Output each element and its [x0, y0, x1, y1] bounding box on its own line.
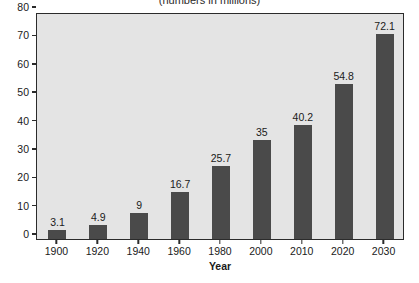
y-axis-tick-label: 30	[17, 143, 32, 155]
y-axis-tick: 60	[17, 58, 36, 70]
chart-subtitle: (numbers in millions)	[0, 0, 419, 6]
y-axis-tick: 0	[23, 228, 36, 240]
y-axis-tick-label: 20	[17, 171, 32, 183]
bar-group: 25.7	[201, 14, 242, 239]
x-axis-tick-label: 1920	[86, 244, 109, 257]
bar	[48, 230, 66, 239]
y-axis-tick-mark	[32, 6, 36, 8]
bar-value-label: 3.1	[50, 216, 65, 228]
x-axis-tick: 1900	[45, 240, 68, 257]
bar-group: 72.1	[364, 14, 405, 239]
x-axis: 190019201940196019802000201020202030	[36, 240, 404, 256]
x-axis-tick: 2000	[249, 240, 272, 257]
y-axis-tick-label: 70	[17, 29, 32, 41]
bar	[335, 84, 353, 239]
bar	[294, 125, 312, 239]
bar	[376, 34, 394, 239]
y-axis-tick-label: 50	[17, 86, 32, 98]
bar-value-label: 25.7	[211, 152, 231, 164]
bar-value-label: 72.1	[374, 20, 394, 32]
bar	[171, 192, 189, 239]
y-axis-tick: 70	[17, 29, 36, 41]
bars-layer: 3.14.9916.725.73540.254.872.1	[37, 14, 403, 239]
x-axis-tick-label: 1900	[45, 244, 68, 257]
x-axis-tick: 2030	[372, 240, 395, 257]
x-axis-tick-label: 2030	[372, 244, 395, 257]
x-axis-tick-label: 1960	[167, 244, 190, 257]
y-axis-tick: 10	[17, 200, 36, 212]
y-axis-tick-label: 60	[17, 58, 32, 70]
y-axis-tick: 20	[17, 171, 36, 183]
bar-group: 16.7	[160, 14, 201, 239]
bar-group: 3.1	[37, 14, 78, 239]
x-axis-tick-label: 2000	[249, 244, 272, 257]
bar-group: 35	[241, 14, 282, 239]
bar	[253, 140, 271, 239]
bar-value-label: 54.8	[333, 70, 353, 82]
bar-value-label: 16.7	[170, 178, 190, 190]
bar-group: 40.2	[282, 14, 323, 239]
x-axis-tick: 2020	[331, 240, 354, 257]
bar	[89, 225, 107, 239]
x-axis-tick-label: 1940	[127, 244, 150, 257]
x-axis-tick: 2010	[290, 240, 313, 257]
bar-value-label: 4.9	[91, 211, 106, 223]
plot-area: 3.14.9916.725.73540.254.872.1	[36, 13, 404, 240]
y-axis-tick: 30	[17, 143, 36, 155]
bar-value-label: 9	[136, 199, 142, 211]
x-axis-tick: 1960	[167, 240, 190, 257]
x-axis-tick-label: 2020	[331, 244, 354, 257]
y-axis-tick-label: 80	[17, 1, 32, 13]
bar-group: 9	[119, 14, 160, 239]
y-axis-tick-label: 40	[17, 115, 32, 127]
x-axis-tick: 1920	[86, 240, 109, 257]
y-axis-tick-label: 10	[17, 200, 32, 212]
y-axis: 01020304050607080	[0, 13, 36, 240]
bar	[212, 166, 230, 239]
bar-value-label: 40.2	[293, 111, 313, 123]
x-axis-tick-label: 1980	[208, 244, 231, 257]
x-axis-tick-label: 2010	[290, 244, 313, 257]
y-axis-tick: 40	[17, 115, 36, 127]
y-axis-tick: 80	[17, 1, 36, 13]
bar-group: 4.9	[78, 14, 119, 239]
y-axis-tick-label: 0	[23, 228, 32, 240]
x-axis-tick: 1940	[127, 240, 150, 257]
bar	[130, 213, 148, 239]
x-axis-tick: 1980	[208, 240, 231, 257]
bar-group: 54.8	[323, 14, 364, 239]
bar-value-label: 35	[256, 126, 268, 138]
x-axis-title: Year	[36, 260, 404, 272]
y-axis-tick: 50	[17, 86, 36, 98]
